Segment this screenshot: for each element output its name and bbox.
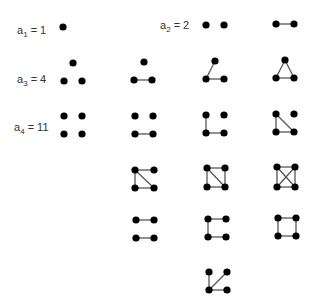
graph-vertex (291, 183, 298, 190)
graph-n4-complete (273, 163, 298, 190)
graph-vertex (78, 77, 85, 84)
graph-n3-triangle (272, 56, 297, 81)
graph-vertex (132, 216, 139, 223)
graph-vertex (220, 75, 227, 82)
graph-vertex (290, 110, 297, 117)
graph-n4-triangle-plus-vertex (272, 110, 297, 135)
graph-vertex (281, 56, 288, 63)
graph-n2-empty (202, 21, 227, 28)
graph-vertex (211, 57, 218, 64)
graph-vertex (272, 74, 279, 81)
graph-n4-path4 (204, 215, 229, 240)
graph-vertex (205, 268, 212, 275)
graph-n1-empty (59, 23, 66, 30)
graph-vertex (59, 23, 66, 30)
graph-vertex (272, 128, 279, 135)
graph-vertex (290, 128, 297, 135)
graph-n4-star (205, 268, 230, 293)
graph-vertex (292, 214, 299, 221)
graph-edge (135, 170, 154, 188)
graph-vertex (221, 164, 228, 171)
graph-vertex (78, 130, 85, 137)
graph-vertex (60, 112, 67, 119)
graph-vertex (273, 183, 280, 190)
graph-vertex (132, 234, 139, 241)
graph-vertex (202, 21, 209, 28)
graph-vertex (291, 163, 298, 170)
graph-vertex (202, 75, 209, 82)
graph-vertex (220, 129, 227, 136)
graph-n4-one-edge (131, 112, 156, 137)
graph-vertex (60, 77, 67, 84)
graph-vertex (203, 164, 210, 171)
graph-vertex (272, 110, 279, 117)
graph-vertex (220, 21, 227, 28)
graph-n4-path3-plus-vertex (202, 111, 227, 136)
graph-n4-diamond (203, 164, 228, 190)
graph-vertex (130, 76, 137, 83)
graph-vertex (273, 163, 280, 170)
graph-vertex (223, 268, 230, 275)
graph-vertex (274, 232, 281, 239)
graph-n4-cycle4 (274, 214, 299, 239)
graph-vertex (204, 233, 211, 240)
graph-vertex (148, 76, 155, 83)
graph-n2-edge (272, 20, 297, 27)
graph-n3-path (202, 57, 227, 82)
graph-vertex (140, 58, 147, 65)
graph-vertex (131, 112, 138, 119)
graph-vertex (131, 184, 138, 191)
graph-vertex (223, 286, 230, 293)
graph-vertex (131, 130, 138, 137)
graph-diagram (0, 0, 317, 308)
graph-vertex (222, 215, 229, 222)
graph-vertex (131, 166, 138, 173)
graph-n4-two-edges (132, 216, 157, 241)
graph-vertex (202, 111, 209, 118)
graph-edge (209, 272, 227, 290)
graph-vertex (274, 214, 281, 221)
graph-vertex (202, 129, 209, 136)
graph-vertex (204, 215, 211, 222)
graph-n4-empty (60, 112, 85, 137)
graph-vertex (150, 234, 157, 241)
graph-edge (276, 114, 294, 132)
graph-vertex (290, 74, 297, 81)
graph-vertex (149, 112, 156, 119)
graph-vertex (78, 112, 85, 119)
graph-vertex (69, 59, 76, 66)
graph-vertex (149, 130, 156, 137)
graph-vertex (205, 286, 212, 293)
graph-vertex (150, 184, 157, 191)
graph-n3-one-edge (130, 58, 155, 83)
graph-vertex (290, 20, 297, 27)
graph-vertex (60, 130, 67, 137)
graph-n4-paw (131, 166, 157, 191)
graph-vertex (272, 20, 279, 27)
graph-edge (207, 168, 225, 187)
graph-vertex (292, 232, 299, 239)
graph-vertex (220, 111, 227, 118)
graph-vertex (221, 183, 228, 190)
graph-vertex (150, 166, 157, 173)
graph-vertex (222, 233, 229, 240)
graph-vertex (203, 183, 210, 190)
graph-vertex (150, 216, 157, 223)
graph-n3-empty (60, 59, 85, 84)
